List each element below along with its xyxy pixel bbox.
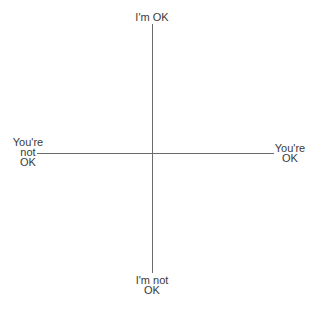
ok-quadrant-diagram: I'm OK I'm not OK You're not OK You're O… <box>0 0 320 309</box>
label-line: OK <box>6 157 50 167</box>
label-line: I'm OK <box>122 12 182 22</box>
label-line: OK <box>268 153 312 163</box>
label-right-youre-ok: You're OK <box>268 143 312 163</box>
label-line: OK <box>122 285 182 295</box>
label-top-im-ok: I'm OK <box>122 12 182 22</box>
horizontal-axis <box>37 153 274 154</box>
label-bottom-im-not-ok: I'm not OK <box>122 275 182 295</box>
label-left-youre-not-ok: You're not OK <box>6 137 50 167</box>
vertical-axis <box>152 24 153 273</box>
